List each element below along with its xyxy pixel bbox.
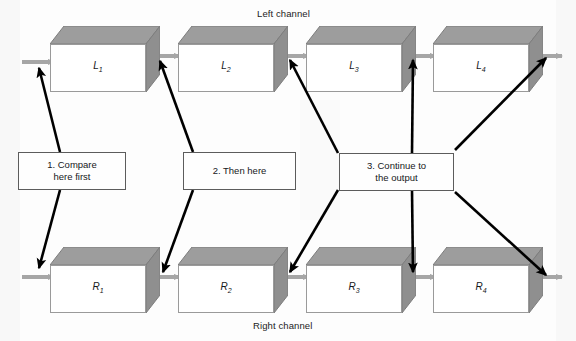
callout3-arrow-to-L2L3 (290, 60, 338, 153)
diagram-canvas: Left channel Right channel (0, 0, 576, 341)
callout2-arrow-to-L1L2 (160, 61, 193, 152)
callout-2-text: 2. Then here (213, 165, 267, 177)
callout-3-text: 3. Continue to the output (367, 160, 426, 184)
callout-1-text: 1. Compare here first (47, 159, 97, 183)
callout3-arrow-to-R3R4 (412, 190, 413, 272)
callout3-arrow-to-R4out (455, 192, 546, 275)
callout1-arrow-to-L1 (39, 68, 60, 152)
callout3-arrow-to-L3L4 (412, 60, 413, 153)
callout3-arrow-to-L4out (455, 58, 546, 150)
callout2-arrow-to-R1R2 (163, 190, 193, 272)
callout1-arrow-to-R1 (39, 190, 60, 268)
callout-box-2[interactable]: 2. Then here (183, 152, 296, 190)
callout-box-1[interactable]: 1. Compare here first (18, 152, 126, 190)
callout-box-3[interactable]: 3. Continue to the output (339, 153, 454, 191)
callout3-arrow-to-R2R3 (290, 190, 338, 272)
